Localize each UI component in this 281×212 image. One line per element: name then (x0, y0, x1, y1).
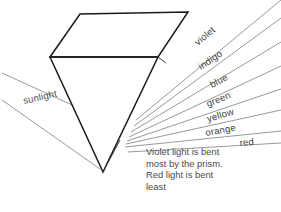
spectrum-label-group: violetindigobluegreenyelloworangered (192, 24, 254, 148)
spectrum-label-violet: violet (192, 24, 217, 48)
caption-line: most by the prism. (146, 158, 276, 170)
prism-dispersion-diagram: sunlight violetindigobluegreenyelloworan… (0, 0, 281, 212)
prism-front-face (50, 57, 158, 172)
sunlight-label: sunlight (22, 87, 58, 105)
spectrum-label-blue: blue (208, 71, 230, 90)
caption-line: Red light is bent (146, 169, 276, 181)
spectrum-label-orange: orange (204, 122, 236, 138)
spectrum-label-indigo: indigo (196, 48, 224, 72)
caption-line: Violet light is bent (146, 146, 276, 158)
caption-block: Violet light is bentmost by the prism.Re… (146, 146, 276, 192)
caption-line: least (146, 181, 276, 193)
